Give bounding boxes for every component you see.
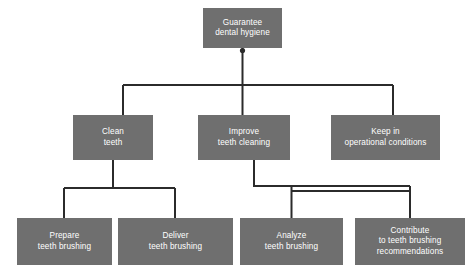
node-improve-teeth-cleaning[interactable]: Improve teeth cleaning xyxy=(198,115,290,160)
goal-breakdown-diagram: Guarantee dental hygiene Clean teeth Imp… xyxy=(0,0,474,270)
node-contribute-to-teeth-brushing-recommendations[interactable]: Contribute to teeth brushing recommendat… xyxy=(355,218,465,265)
node-deliver-teeth-brushing[interactable]: Deliver teeth brushing xyxy=(118,218,233,265)
root-origin-dot xyxy=(240,48,245,53)
node-label: Keep in operational conditions xyxy=(340,127,432,148)
node-label: Contribute to teeth brushing recommendat… xyxy=(372,226,449,258)
node-label: Improve teeth cleaning xyxy=(213,127,275,148)
node-label: Analyze teeth brushing xyxy=(260,231,323,252)
node-label: Clean teeth xyxy=(97,127,129,148)
node-analyze-teeth-brushing[interactable]: Analyze teeth brushing xyxy=(240,218,343,265)
node-prepare-teeth-brushing[interactable]: Prepare teeth brushing xyxy=(17,218,112,265)
node-label: Deliver teeth brushing xyxy=(144,231,207,252)
node-clean-teeth[interactable]: Clean teeth xyxy=(73,115,153,160)
node-label: Prepare teeth brushing xyxy=(33,231,96,252)
node-keep-in-operational-conditions[interactable]: Keep in operational conditions xyxy=(331,115,440,160)
node-guarantee-dental-hygiene[interactable]: Guarantee dental hygiene xyxy=(203,8,282,48)
node-label: Guarantee dental hygiene xyxy=(210,18,275,39)
edge-improve-stem xyxy=(254,160,410,186)
